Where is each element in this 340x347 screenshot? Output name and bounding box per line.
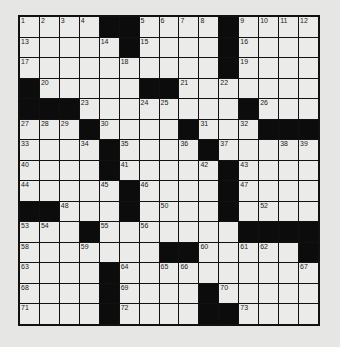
grid-cell[interactable]: 67 xyxy=(299,263,318,283)
grid-cell[interactable] xyxy=(80,38,99,58)
grid-cell[interactable] xyxy=(239,79,258,99)
grid-cell[interactable] xyxy=(60,79,79,99)
grid-cell[interactable] xyxy=(60,161,79,181)
grid-cell[interactable] xyxy=(140,58,159,78)
grid-cell[interactable] xyxy=(100,243,119,263)
grid-cell[interactable] xyxy=(179,58,198,78)
grid-cell[interactable]: 2 xyxy=(40,17,59,37)
grid-cell[interactable] xyxy=(259,263,278,283)
grid-cell[interactable] xyxy=(279,304,298,324)
grid-cell[interactable] xyxy=(219,120,238,140)
grid-cell[interactable] xyxy=(199,263,218,283)
grid-cell[interactable] xyxy=(299,181,318,201)
grid-cell[interactable] xyxy=(199,222,218,242)
grid-cell[interactable] xyxy=(140,263,159,283)
grid-cell[interactable] xyxy=(40,140,59,160)
grid-cell[interactable] xyxy=(40,263,59,283)
grid-cell[interactable] xyxy=(199,79,218,99)
grid-cell[interactable] xyxy=(100,79,119,99)
grid-cell[interactable] xyxy=(279,243,298,263)
grid-cell[interactable] xyxy=(120,222,139,242)
grid-cell[interactable] xyxy=(279,161,298,181)
grid-cell[interactable]: 52 xyxy=(259,202,278,222)
grid-cell[interactable]: 38 xyxy=(279,140,298,160)
grid-cell[interactable] xyxy=(160,120,179,140)
grid-cell[interactable] xyxy=(160,38,179,58)
grid-cell[interactable] xyxy=(259,38,278,58)
grid-cell[interactable] xyxy=(60,140,79,160)
grid-cell[interactable]: 5 xyxy=(140,17,159,37)
grid-cell[interactable]: 62 xyxy=(259,243,278,263)
grid-cell[interactable] xyxy=(80,58,99,78)
grid-cell[interactable] xyxy=(179,99,198,119)
grid-cell[interactable] xyxy=(279,38,298,58)
grid-cell[interactable] xyxy=(279,284,298,304)
grid-cell[interactable]: 42 xyxy=(199,161,218,181)
grid-cell[interactable]: 58 xyxy=(20,243,39,263)
grid-cell[interactable] xyxy=(120,243,139,263)
grid-cell[interactable] xyxy=(299,304,318,324)
grid-cell[interactable] xyxy=(219,222,238,242)
grid-cell[interactable] xyxy=(60,243,79,263)
grid-cell[interactable]: 33 xyxy=(20,140,39,160)
grid-cell[interactable] xyxy=(80,79,99,99)
grid-cell[interactable]: 61 xyxy=(239,243,258,263)
grid-cell[interactable]: 63 xyxy=(20,263,39,283)
grid-cell[interactable]: 68 xyxy=(20,284,39,304)
grid-cell[interactable] xyxy=(299,99,318,119)
grid-cell[interactable] xyxy=(179,222,198,242)
grid-cell[interactable] xyxy=(239,263,258,283)
grid-cell[interactable] xyxy=(160,222,179,242)
grid-cell[interactable] xyxy=(239,202,258,222)
grid-cell[interactable] xyxy=(60,38,79,58)
grid-cell[interactable] xyxy=(219,243,238,263)
grid-cell[interactable]: 53 xyxy=(20,222,39,242)
grid-cell[interactable] xyxy=(259,161,278,181)
grid-cell[interactable] xyxy=(199,202,218,222)
grid-cell[interactable] xyxy=(160,284,179,304)
grid-cell[interactable] xyxy=(199,58,218,78)
grid-cell[interactable] xyxy=(299,202,318,222)
grid-cell[interactable]: 12 xyxy=(299,17,318,37)
grid-cell[interactable]: 14 xyxy=(100,38,119,58)
grid-cell[interactable] xyxy=(60,284,79,304)
grid-cell[interactable] xyxy=(60,222,79,242)
grid-cell[interactable]: 66 xyxy=(179,263,198,283)
grid-cell[interactable] xyxy=(179,181,198,201)
grid-cell[interactable]: 21 xyxy=(179,79,198,99)
grid-cell[interactable] xyxy=(259,181,278,201)
grid-cell[interactable]: 20 xyxy=(40,79,59,99)
grid-cell[interactable]: 1 xyxy=(20,17,39,37)
grid-cell[interactable] xyxy=(179,284,198,304)
grid-cell[interactable]: 36 xyxy=(179,140,198,160)
grid-cell[interactable]: 30 xyxy=(100,120,119,140)
grid-cell[interactable]: 64 xyxy=(120,263,139,283)
grid-cell[interactable]: 23 xyxy=(80,99,99,119)
grid-cell[interactable] xyxy=(140,202,159,222)
grid-cell[interactable]: 9 xyxy=(239,17,258,37)
grid-cell[interactable] xyxy=(100,99,119,119)
grid-cell[interactable]: 19 xyxy=(239,58,258,78)
grid-cell[interactable] xyxy=(179,202,198,222)
grid-cell[interactable] xyxy=(40,38,59,58)
grid-cell[interactable]: 18 xyxy=(120,58,139,78)
grid-cell[interactable] xyxy=(279,263,298,283)
grid-cell[interactable] xyxy=(140,304,159,324)
grid-cell[interactable]: 15 xyxy=(140,38,159,58)
grid-cell[interactable]: 44 xyxy=(20,181,39,201)
grid-cell[interactable] xyxy=(160,304,179,324)
grid-cell[interactable] xyxy=(259,304,278,324)
grid-cell[interactable]: 70 xyxy=(219,284,238,304)
grid-cell[interactable] xyxy=(160,140,179,160)
grid-cell[interactable] xyxy=(299,79,318,99)
grid-cell[interactable] xyxy=(40,304,59,324)
grid-cell[interactable]: 60 xyxy=(199,243,218,263)
grid-cell[interactable] xyxy=(140,243,159,263)
grid-cell[interactable] xyxy=(60,263,79,283)
grid-cell[interactable]: 17 xyxy=(20,58,39,78)
grid-cell[interactable]: 48 xyxy=(60,202,79,222)
grid-cell[interactable]: 59 xyxy=(80,243,99,263)
grid-cell[interactable] xyxy=(259,58,278,78)
grid-cell[interactable] xyxy=(80,161,99,181)
grid-cell[interactable]: 43 xyxy=(239,161,258,181)
